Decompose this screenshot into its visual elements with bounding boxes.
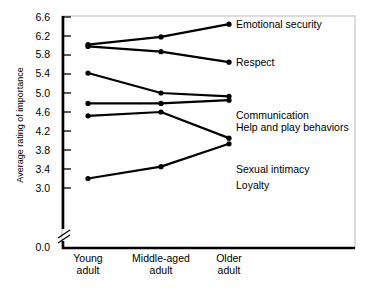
x-tick-line1: Older (189, 252, 269, 264)
data-point (158, 49, 163, 54)
plot-area (0, 0, 368, 295)
x-tick-line2: adult (48, 264, 128, 276)
data-point (85, 113, 90, 118)
data-point (226, 60, 231, 65)
line-chart: Average rating of importance 6.6 6.2 5.8… (0, 0, 368, 295)
data-point (158, 90, 163, 95)
data-point (158, 34, 163, 39)
data-point (226, 98, 231, 103)
data-point (85, 44, 90, 49)
series-label-respect: Respect (236, 57, 275, 68)
data-point (85, 70, 90, 75)
x-tick-label-young-adult: Young adult (48, 252, 128, 276)
data-point (226, 141, 231, 146)
x-tick-line1: Young (48, 252, 128, 264)
data-point (85, 101, 90, 106)
data-point (226, 22, 231, 27)
data-point (158, 164, 163, 169)
data-point (158, 109, 163, 114)
x-tick-line2: adult (189, 264, 269, 276)
data-point (226, 136, 231, 141)
data-point (158, 101, 163, 106)
series-label-loyalty: Loyalty (236, 180, 269, 191)
series-label-emotional-security: Emotional security (236, 19, 322, 30)
x-tick-label-older-adult: Older adult (189, 252, 269, 276)
series-label-sexual-intimacy: Sexual intimacy (236, 164, 310, 175)
series-label-help-and-play-behaviors: Help and play behaviors (236, 122, 349, 133)
series-label-communication: Communication (236, 110, 309, 121)
data-point (85, 176, 90, 181)
